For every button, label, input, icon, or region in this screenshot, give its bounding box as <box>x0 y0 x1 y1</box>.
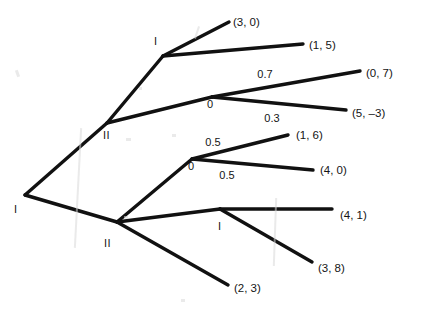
payoff-label: (4, 1) <box>340 210 367 222</box>
payoff-label: (4, 0) <box>320 165 347 177</box>
tree-branch[interactable] <box>25 195 117 222</box>
probability-label: 0.7 <box>257 69 272 80</box>
game-tree-diagram: IIII0II0I0.70.30.50.5(3, 0)(1, 5)(0, 7)(… <box>0 0 422 318</box>
chance-node-label: 0 <box>188 161 194 172</box>
tree-branch[interactable] <box>117 222 228 285</box>
payoff-label: (3, 8) <box>318 263 345 275</box>
chance-node-label: 0 <box>207 99 213 110</box>
tree-branch[interactable] <box>212 97 346 110</box>
payoff-label: (5, –3) <box>352 108 385 120</box>
tree-branch[interactable] <box>212 71 360 97</box>
branch-layer <box>25 22 360 285</box>
tree-branch[interactable] <box>192 159 313 170</box>
payoff-label: (0, 7) <box>366 68 393 80</box>
probability-label: 0.5 <box>219 170 234 181</box>
tree-branch[interactable] <box>107 97 212 123</box>
probability-label: 0.3 <box>264 113 279 124</box>
payoff-label: (1, 5) <box>309 40 336 52</box>
player-node-label: II <box>104 238 111 249</box>
probability-label: 0.5 <box>205 137 220 148</box>
player-node-label: I <box>218 221 222 232</box>
tree-branch[interactable] <box>25 123 107 195</box>
tree-canvas <box>0 0 422 318</box>
player-node-label: II <box>103 130 110 141</box>
payoff-label: (3, 0) <box>233 17 260 29</box>
player-node-label: I <box>154 36 158 47</box>
payoff-label: (2, 3) <box>234 283 261 295</box>
player-node-label: I <box>14 204 18 215</box>
tree-branch[interactable] <box>220 209 312 262</box>
payoff-label: (1, 6) <box>296 130 323 142</box>
